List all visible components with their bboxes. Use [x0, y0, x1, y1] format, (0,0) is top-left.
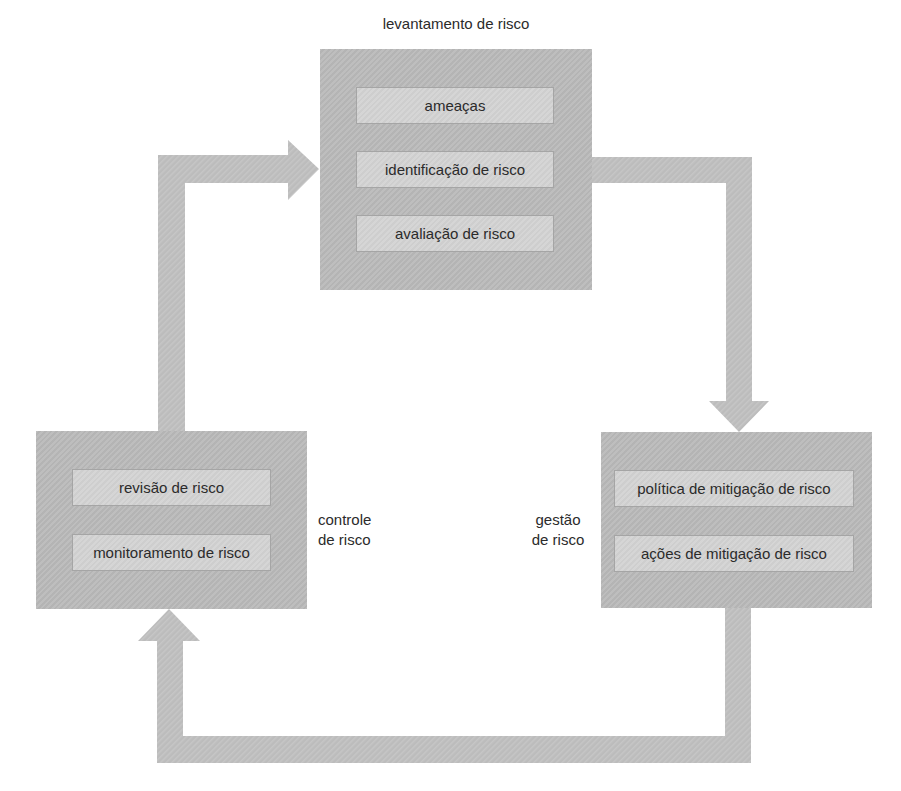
- arrow-management-to-control: [138, 608, 751, 763]
- mitigation-actions-label: ações de mitigação de risco: [641, 545, 827, 562]
- risk-monitoring-box: monitoramento de risco: [72, 534, 271, 571]
- risk-review-label: revisão de risco: [119, 479, 224, 496]
- risk-review-box: revisão de risco: [72, 469, 271, 506]
- risk-evaluation-label: avaliação de risco: [395, 225, 515, 242]
- risk-identification-box: identificação de risco: [356, 151, 554, 188]
- risk-identification-label: identificação de risco: [385, 161, 525, 178]
- management-label-line1: gestão: [524, 510, 592, 530]
- mitigation-policy-label: política de mitigação de risco: [637, 480, 830, 497]
- control-label: controle de risco: [318, 510, 371, 550]
- management-label-line2: de risco: [524, 530, 592, 550]
- mitigation-policy-box: política de mitigação de risco: [614, 470, 854, 507]
- management-block: [601, 432, 872, 608]
- mitigation-actions-box: ações de mitigação de risco: [614, 535, 854, 572]
- risk-evaluation-box: avaliação de risco: [356, 215, 554, 252]
- threats-box: ameaças: [356, 87, 554, 124]
- control-block: [36, 431, 307, 609]
- risk-cycle-diagram: levantamento de risco ameaças identifica…: [0, 0, 901, 791]
- arrow-assessment-to-management: [592, 157, 769, 432]
- control-label-line2: de risco: [318, 530, 371, 550]
- control-label-line1: controle: [318, 510, 371, 530]
- risk-monitoring-label: monitoramento de risco: [93, 544, 250, 561]
- arrow-control-to-assessment: [158, 140, 319, 432]
- threats-label: ameaças: [425, 97, 486, 114]
- management-label: gestão de risco: [524, 510, 592, 550]
- assessment-title: levantamento de risco: [320, 14, 592, 34]
